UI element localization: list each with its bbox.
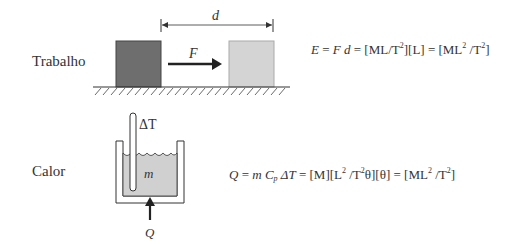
mass-symbol: m: [144, 166, 153, 182]
diagram-graphics: [0, 0, 509, 246]
row-label-work: Trabalho: [32, 53, 86, 70]
heat-equation: Q = m Cp ΔT = [M][L2 /T2θ][θ] = [ML2 /T2…: [229, 166, 455, 183]
dark-block: [116, 41, 161, 87]
work-equation: E = F d = [ML/T2][L] = [ML2 /T2]: [311, 41, 489, 58]
thermometer: [130, 113, 136, 191]
distance-symbol: d: [212, 8, 219, 24]
ground-hatch: [93, 87, 290, 95]
temp-change-symbol: ΔT: [139, 117, 157, 133]
row-label-heat: Calor: [32, 163, 65, 180]
heat-symbol: Q: [145, 225, 154, 241]
light-block: [229, 41, 274, 87]
force-symbol: F: [189, 46, 198, 62]
